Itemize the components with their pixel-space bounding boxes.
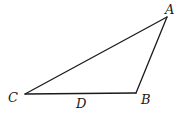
vertex-labels: A C B D <box>8 2 174 111</box>
triangle-edges <box>25 17 167 94</box>
triangle-diagram: A C B D <box>0 0 184 115</box>
edge-ab <box>136 17 167 93</box>
label-vertex-b: B <box>140 92 151 107</box>
label-point-d: D <box>75 96 87 111</box>
label-vertex-c: C <box>8 90 18 105</box>
label-vertex-a: A <box>164 2 174 17</box>
edge-ca <box>25 17 167 94</box>
edge-bc <box>25 93 136 94</box>
